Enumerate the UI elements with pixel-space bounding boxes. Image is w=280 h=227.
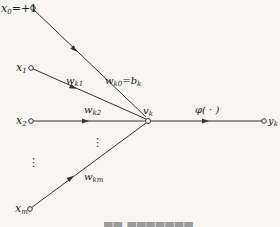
node-yk [262, 119, 267, 124]
ellipsis-weights: ⋮ [92, 136, 103, 149]
label-xm: xm [15, 202, 28, 216]
weight-label-wkm: wkm [84, 171, 104, 184]
node-x2 [29, 119, 34, 124]
label-yk: yk [267, 115, 278, 128]
edge-x0-vk [33, 9, 146, 117]
figure-caption-truncated: ▀▀ ▀▀▀▀▀▀▀ [104, 222, 216, 227]
figure-caption: ▀▀ ▀▀▀▀▀▀▀ [104, 222, 216, 227]
arrow-icon [82, 119, 89, 124]
weight-label-wk2: wk2 [84, 104, 102, 117]
label-x2: x2 [16, 114, 27, 128]
label-activation: φ( · ) [195, 104, 219, 115]
label-x0: x0=+1 [1, 2, 37, 16]
node-x1 [29, 66, 34, 71]
weight-label-wk1: wk1 [66, 75, 83, 88]
node-xm [28, 207, 33, 212]
node-vk [146, 119, 151, 124]
weight-label-wk0: wk0=bk [105, 75, 141, 88]
label-x1: x1 [16, 61, 27, 75]
edge-xm-vk [31, 123, 146, 208]
neuron-diagram: x0=+1 x1 x2 xm wk0=bk wk1 wk2 wkm ⋮ ⋮ vk… [0, 0, 280, 227]
arrow-icon [202, 119, 209, 124]
ellipsis-inputs: ⋮ [28, 156, 39, 169]
